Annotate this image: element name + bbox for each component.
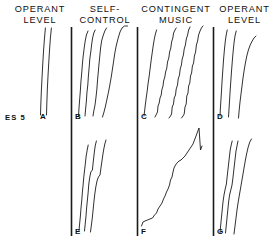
- cumulative-record-curve: [41, 28, 46, 115]
- cumulative-record-curve: [142, 128, 203, 226]
- cumulative-record-curve: [93, 28, 107, 116]
- record-curve-layer: [41, 26, 257, 234]
- cumulative-record-curve: [103, 26, 128, 117]
- cumulative-record-curve: [229, 31, 237, 117]
- cumulative-record-curve: [91, 140, 107, 232]
- cumulative-record-curve: [47, 28, 52, 115]
- cumulative-record-curve: [220, 30, 227, 116]
- cumulative-record-curve: [79, 145, 88, 231]
- cumulative-records-plot: [0, 0, 275, 239]
- cumulative-record-curve: [155, 28, 176, 117]
- cumulative-record-curve: [85, 30, 95, 116]
- column-divider-layer: [72, 27, 214, 236]
- cumulative-record-figure: OPERANT LEVEL SELF- CONTROL CONTINGENT M…: [0, 0, 275, 239]
- cumulative-record-curve: [239, 36, 257, 118]
- cumulative-record-curve: [234, 139, 252, 234]
- cumulative-record-curve: [220, 141, 232, 233]
- cumulative-record-curve: [144, 30, 157, 116]
- cumulative-record-curve: [182, 26, 204, 118]
